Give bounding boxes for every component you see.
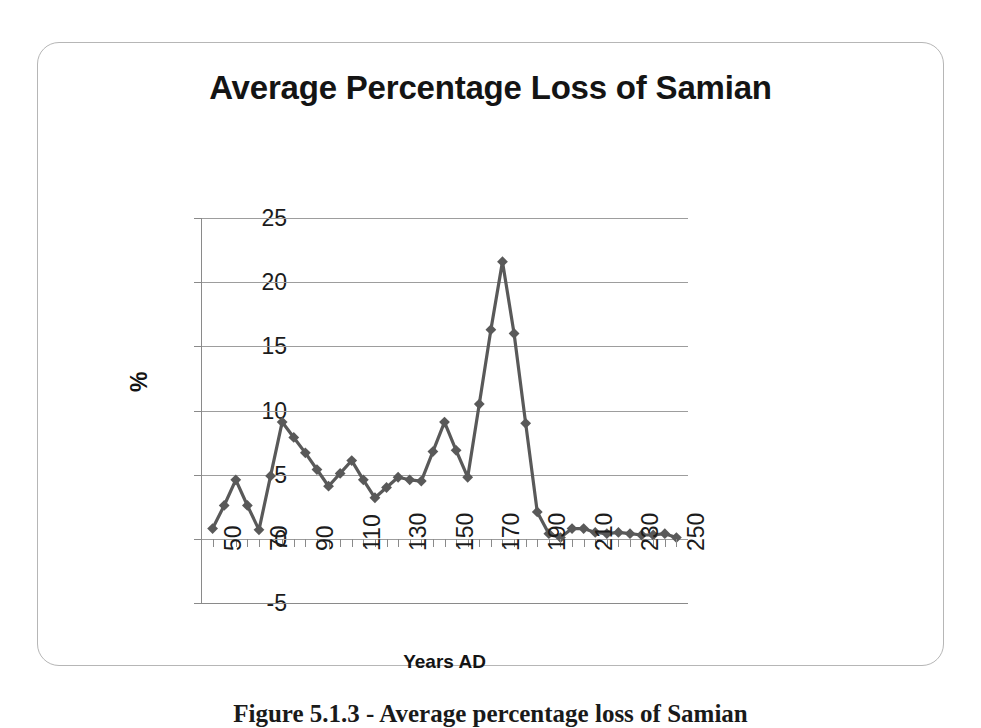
x-tick-mark-210 xyxy=(584,539,585,547)
data-point-marker xyxy=(219,500,230,511)
x-tick-mark-50 xyxy=(213,539,214,547)
y-tick-mark-0 xyxy=(194,539,201,540)
data-point-marker xyxy=(625,528,636,539)
x-tick-mark-125 xyxy=(387,539,388,547)
data-point-marker xyxy=(520,418,531,429)
data-point-marker xyxy=(230,474,241,485)
chart-title: Average Percentage Loss of Samian xyxy=(38,69,943,107)
data-point-marker xyxy=(474,399,485,410)
y-tick-mark-25 xyxy=(194,218,201,219)
y-tick-mark-20 xyxy=(194,282,201,283)
x-tick-label-90: 90 xyxy=(314,525,337,551)
x-tick-label-230: 230 xyxy=(639,512,662,550)
x-tick-label-250: 250 xyxy=(685,512,708,550)
data-point-marker xyxy=(451,445,462,456)
series-polyline xyxy=(213,262,677,538)
x-axis-title: Years AD xyxy=(201,651,688,673)
x-tick-mark-150 xyxy=(445,539,446,547)
x-tick-label-130: 130 xyxy=(407,512,430,550)
x-tick-mark-165 xyxy=(479,539,480,547)
y-axis-title: % xyxy=(126,372,153,392)
x-axis-baseline xyxy=(201,603,688,604)
x-tick-mark-190 xyxy=(537,539,538,547)
data-point-marker xyxy=(439,417,450,428)
x-tick-mark-85 xyxy=(294,539,295,547)
data-point-marker xyxy=(254,524,265,535)
x-tick-mark-145 xyxy=(433,539,434,547)
data-point-marker xyxy=(416,476,427,487)
x-tick-label-50: 50 xyxy=(222,525,245,551)
data-point-marker xyxy=(207,523,218,534)
x-tick-label-70: 70 xyxy=(268,525,291,551)
x-tick-label-110: 110 xyxy=(361,514,384,551)
x-tick-label-170: 170 xyxy=(500,512,523,550)
x-tick-mark-170 xyxy=(491,539,492,547)
data-point-marker xyxy=(242,500,253,511)
x-tick-mark-90 xyxy=(305,539,306,547)
data-point-marker xyxy=(578,523,589,534)
x-tick-mark-225 xyxy=(618,539,619,547)
x-tick-label-190: 190 xyxy=(546,512,569,550)
x-tick-mark-245 xyxy=(665,539,666,547)
data-point-marker xyxy=(428,446,439,457)
x-tick-mark-230 xyxy=(630,539,631,547)
x-tick-mark-70 xyxy=(259,539,260,547)
x-tick-label-150: 150 xyxy=(454,512,477,550)
x-tick-mark-110 xyxy=(352,539,353,547)
y-tick-mark-5 xyxy=(194,475,201,476)
x-tick-mark-205 xyxy=(572,539,573,547)
data-point-marker xyxy=(265,471,276,482)
x-tick-mark-185 xyxy=(526,539,527,547)
data-point-marker xyxy=(509,328,520,339)
data-point-marker xyxy=(462,472,473,483)
figure-panel: Average Percentage Loss of Samian % -505… xyxy=(37,42,944,666)
data-point-marker xyxy=(404,474,415,485)
data-point-marker xyxy=(485,324,496,335)
x-tick-mark-250 xyxy=(676,539,677,547)
y-tick-mark--5 xyxy=(194,603,201,604)
x-tick-label-210: 210 xyxy=(593,512,616,550)
x-tick-mark-130 xyxy=(398,539,399,547)
data-point-marker xyxy=(497,256,508,267)
figure-caption: Figure 5.1.3 - Average percentage loss o… xyxy=(0,700,981,728)
y-tick-mark-15 xyxy=(194,346,201,347)
x-tick-mark-105 xyxy=(340,539,341,547)
y-tick-mark-10 xyxy=(194,411,201,412)
x-tick-mark-65 xyxy=(247,539,248,547)
